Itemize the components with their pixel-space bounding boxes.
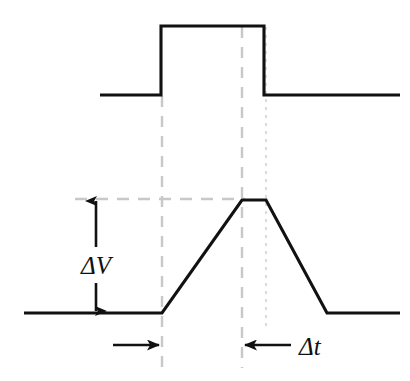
waveform-diagram: ΔV Δt (0, 0, 410, 381)
input-pulse-trace (100, 26, 400, 95)
waveform-figure: ΔV Δt (0, 0, 410, 381)
delta-v-label: ΔV (80, 252, 114, 279)
guide-lines (75, 27, 266, 368)
delta-v-annotation: ΔV (80, 201, 114, 311)
delta-t-annotation: Δt (113, 333, 322, 360)
delta-t-label: Δt (298, 333, 322, 360)
